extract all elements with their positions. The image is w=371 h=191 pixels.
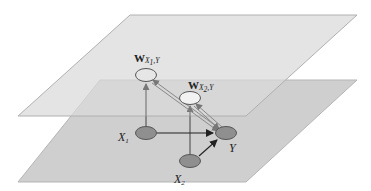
two-layer-diagram: WX1,Y WX2,Y X1 X2 Y <box>0 0 371 191</box>
node-y <box>216 127 237 140</box>
node-x2 <box>180 155 201 168</box>
node-wx1y <box>136 69 157 82</box>
node-x1 <box>136 127 157 140</box>
node-wx2y <box>180 92 201 105</box>
